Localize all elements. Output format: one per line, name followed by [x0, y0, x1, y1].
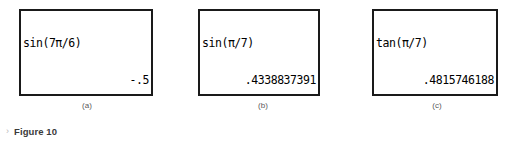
calculator-screen-b: sin(π/7) .4338837391 cos(π/7) .900968867… — [198, 9, 320, 96]
figure-caption: › Figure 10 — [6, 126, 57, 137]
figure-caption-label: Figure 10 — [14, 126, 57, 137]
calculator-output-a: sin(7π/6) -.5 cos(7π/6) -.8660254038 -√(… — [23, 12, 149, 96]
calc-result-line: -.5 — [23, 74, 149, 86]
calculator-panel-c: tan(π/7) .4815746188 Ans-1 2.076521397 (… — [352, 0, 522, 120]
calculator-screen-a: sin(7π/6) -.5 cos(7π/6) -.8660254038 -√(… — [19, 9, 153, 96]
calculator-output-c: tan(π/7) .4815746188 Ans-1 2.076521397 — [376, 12, 494, 96]
calc-entry-line: sin(7π/6) — [23, 37, 149, 49]
calculator-screen-c: tan(π/7) .4815746188 Ans-1 2.076521397 — [372, 9, 498, 96]
sub-caption-c: (c) — [352, 101, 522, 110]
calc-result-line: .4815746188 — [376, 74, 494, 86]
calculator-panel-a: sin(7π/6) -.5 cos(7π/6) -.8660254038 -√(… — [0, 0, 174, 120]
sub-caption-b: (b) — [178, 101, 348, 110]
calculator-panel-b: sin(π/7) .4338837391 cos(π/7) .900968867… — [178, 0, 352, 120]
calc-entry-line: tan(π/7) — [376, 37, 494, 49]
calc-result-line: .4338837391 — [202, 74, 316, 86]
sub-caption-a: (a) — [0, 101, 174, 110]
calculator-output-b: sin(π/7) .4338837391 cos(π/7) .900968867… — [202, 12, 316, 96]
chevron-right-icon: › — [6, 127, 9, 136]
calc-entry-line: sin(π/7) — [202, 37, 316, 49]
figure-10-image: sin(7π/6) -.5 cos(7π/6) -.8660254038 -√(… — [0, 0, 522, 120]
